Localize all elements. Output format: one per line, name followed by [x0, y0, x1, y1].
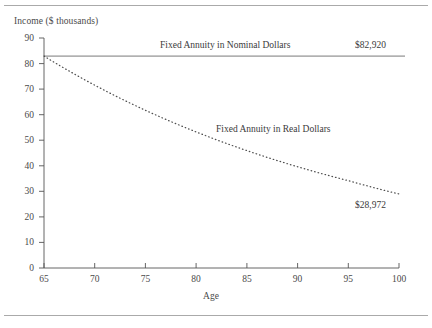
x-tick-label-90: 90	[283, 274, 313, 284]
y-tick-label-10: 10	[8, 237, 34, 247]
y-axis-ticks	[39, 38, 44, 268]
y-tick-label-30: 30	[8, 186, 34, 196]
x-tick-label-95: 95	[333, 274, 363, 284]
figure-container: Income ($ thousands)	[0, 0, 432, 328]
annotation-nominal-value: $82,920	[355, 40, 386, 50]
y-tick-label-50: 50	[8, 135, 34, 145]
y-tick-label-0: 0	[8, 263, 34, 273]
x-tick-label-75: 75	[130, 274, 160, 284]
y-tick-label-60: 60	[8, 110, 34, 120]
x-tick-label-80: 80	[181, 274, 211, 284]
x-tick-label-100: 100	[384, 274, 414, 284]
x-tick-label-85: 85	[232, 274, 262, 284]
annotation-nominal-series: Fixed Annuity in Nominal Dollars	[160, 40, 290, 50]
x-axis-ticks	[44, 263, 399, 268]
annotation-real-series: Fixed Annuity in Real Dollars	[216, 124, 331, 134]
y-tick-label-80: 80	[8, 59, 34, 69]
y-tick-label-20: 20	[8, 212, 34, 222]
x-axis-title-text: Age	[203, 291, 219, 301]
y-tick-label-90: 90	[8, 33, 34, 43]
y-tick-label-40: 40	[8, 161, 34, 171]
x-tick-label-65: 65	[29, 274, 59, 284]
y-tick-label-70: 70	[8, 84, 34, 94]
x-tick-label-70: 70	[80, 274, 110, 284]
x-axis-title: Age	[0, 291, 432, 301]
annotation-real-value: $28,972	[355, 200, 386, 210]
